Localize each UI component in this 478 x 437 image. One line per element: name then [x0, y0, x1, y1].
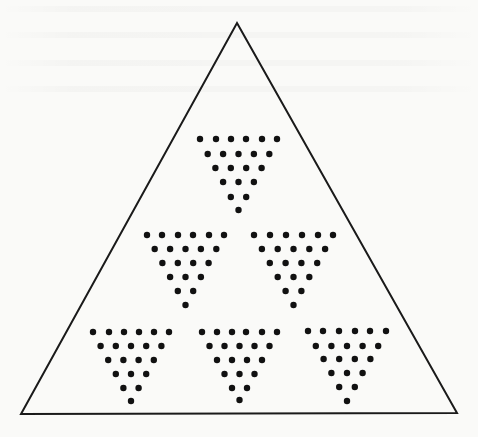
- dot: [198, 274, 204, 280]
- dot: [128, 371, 134, 377]
- dot: [214, 329, 220, 335]
- dot: [243, 165, 249, 171]
- dot: [282, 260, 288, 266]
- dot: [175, 260, 181, 266]
- dot: [228, 165, 234, 171]
- dot: [175, 288, 181, 294]
- dot: [251, 151, 257, 157]
- dot: [367, 356, 373, 362]
- dot: [105, 357, 111, 363]
- dot: [158, 343, 164, 349]
- dot: [259, 136, 265, 142]
- dot: [236, 371, 242, 377]
- dot: [182, 302, 188, 308]
- dot: [151, 357, 157, 363]
- dot: [344, 370, 350, 376]
- dot: [383, 328, 389, 334]
- dot: [259, 246, 265, 252]
- dot: [375, 343, 381, 349]
- document-page: [0, 0, 478, 437]
- dot: [229, 385, 235, 391]
- dot: [205, 260, 211, 266]
- dot: [251, 232, 257, 238]
- dot: [235, 151, 241, 157]
- dot: [228, 136, 234, 142]
- dot: [128, 398, 134, 404]
- dot: [235, 179, 241, 185]
- dot: [322, 246, 328, 252]
- dot: [244, 385, 250, 391]
- dot-groups: [90, 136, 389, 404]
- dot: [236, 343, 242, 349]
- dot: [244, 357, 250, 363]
- dot: [136, 329, 142, 335]
- dot: [336, 328, 342, 334]
- dot: [359, 343, 365, 349]
- dot: [214, 357, 220, 363]
- dot: [320, 356, 326, 362]
- dot-group-tier3-center: [199, 329, 280, 403]
- dot: [290, 274, 296, 280]
- dot: [190, 260, 196, 266]
- dot: [167, 246, 173, 252]
- dot: [143, 343, 149, 349]
- dot: [359, 370, 365, 376]
- dot: [182, 246, 188, 252]
- dot: [212, 165, 218, 171]
- dot: [259, 357, 265, 363]
- dot: [251, 179, 257, 185]
- dot: [330, 232, 336, 238]
- dot: [305, 328, 311, 334]
- dot: [283, 232, 289, 238]
- dot: [206, 232, 212, 238]
- dot: [143, 371, 149, 377]
- outer-triangle: [21, 23, 457, 414]
- dot-group-tier1-center: [197, 136, 280, 213]
- dot: [275, 274, 281, 280]
- dot: [228, 194, 234, 200]
- dot: [121, 329, 127, 335]
- dot: [166, 329, 172, 335]
- dot: [175, 232, 181, 238]
- dot: [314, 260, 320, 266]
- dot: [328, 370, 334, 376]
- dot: [274, 329, 280, 335]
- dot: [352, 384, 358, 390]
- dot: [235, 207, 241, 213]
- dot: [243, 329, 249, 335]
- dot: [243, 136, 249, 142]
- dot: [97, 343, 103, 349]
- dot: [243, 194, 249, 200]
- dot: [344, 343, 350, 349]
- dot: [213, 136, 219, 142]
- dot: [220, 151, 226, 157]
- dot: [144, 232, 150, 238]
- dot: [120, 357, 126, 363]
- dot: [182, 274, 188, 280]
- triangle-dot-diagram: [0, 0, 478, 437]
- dot: [352, 356, 358, 362]
- dot: [151, 329, 157, 335]
- dot: [282, 288, 288, 294]
- dot: [290, 302, 296, 308]
- dot: [106, 329, 112, 335]
- dot: [199, 329, 205, 335]
- dot: [290, 246, 296, 252]
- dot: [221, 343, 227, 349]
- dot: [299, 232, 305, 238]
- dot: [128, 343, 134, 349]
- dot: [328, 343, 334, 349]
- dot: [258, 165, 264, 171]
- dot: [251, 343, 257, 349]
- dot: [205, 151, 211, 157]
- dot: [220, 179, 226, 185]
- dot: [320, 328, 326, 334]
- dot: [315, 232, 321, 238]
- dot: [113, 371, 119, 377]
- dot: [197, 136, 203, 142]
- dot: [259, 329, 265, 335]
- dot: [306, 274, 312, 280]
- dot: [251, 371, 257, 377]
- dot: [167, 274, 173, 280]
- dot: [229, 357, 235, 363]
